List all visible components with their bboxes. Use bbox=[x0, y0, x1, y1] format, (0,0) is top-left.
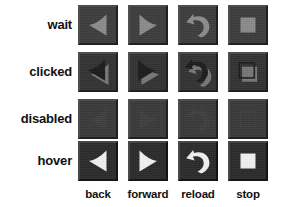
button-forward-wait[interactable] bbox=[128, 5, 168, 45]
button-back-disabled[interactable] bbox=[78, 99, 118, 139]
button-reload-wait[interactable] bbox=[178, 5, 218, 45]
button-back-hover[interactable] bbox=[78, 141, 118, 181]
button-reload-hover[interactable] bbox=[178, 141, 218, 181]
button-stop-disabled[interactable] bbox=[228, 99, 268, 139]
button-forward-disabled[interactable] bbox=[128, 99, 168, 139]
row-label-disabled: disabled bbox=[0, 112, 72, 126]
row-label-clicked: clicked bbox=[0, 65, 72, 79]
button-stop-wait[interactable] bbox=[228, 5, 268, 45]
button-reload-clicked[interactable] bbox=[178, 52, 218, 92]
button-forward-clicked[interactable] bbox=[128, 52, 168, 92]
column-label-stop: stop bbox=[213, 188, 281, 200]
button-back-clicked[interactable] bbox=[78, 52, 118, 92]
button-stop-clicked[interactable] bbox=[228, 52, 268, 92]
button-reload-disabled[interactable] bbox=[178, 99, 218, 139]
button-back-wait[interactable] bbox=[78, 5, 118, 45]
button-state-matrix: waitclickeddisabledhoverbackforwardreloa… bbox=[0, 0, 281, 207]
button-forward-hover[interactable] bbox=[128, 141, 168, 181]
row-label-hover: hover bbox=[0, 154, 72, 168]
button-stop-hover[interactable] bbox=[228, 141, 268, 181]
row-label-wait: wait bbox=[0, 18, 72, 32]
